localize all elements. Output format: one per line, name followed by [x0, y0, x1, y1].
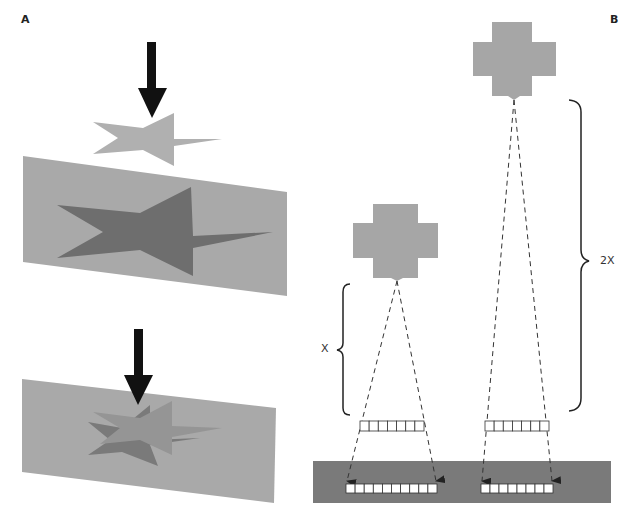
x-ray-source-far	[473, 22, 556, 96]
image-bar-near	[346, 484, 437, 493]
dimension-label-2x: 2X	[600, 254, 615, 267]
light-star-floating	[93, 113, 222, 166]
object-bar-near	[360, 421, 424, 431]
beam-near-right	[397, 281, 436, 481]
object-bar-far	[485, 421, 549, 431]
panel-a-bottom-scene	[22, 329, 276, 503]
detector-strip	[313, 461, 611, 503]
down-arrow-shaft-bottom	[134, 329, 143, 377]
down-arrow-shaft-top	[147, 42, 156, 90]
beam-near-left	[347, 281, 397, 481]
bracket-2x	[569, 100, 589, 411]
bracket-x	[337, 284, 350, 415]
image-bar-far	[481, 484, 553, 493]
x-ray-source-near	[353, 204, 438, 278]
down-arrow-head-top	[138, 88, 167, 118]
panel-b-scene	[313, 22, 611, 503]
diagram-canvas	[0, 0, 632, 518]
panel-a-top-scene	[23, 42, 287, 296]
dimension-label-x: X	[321, 342, 329, 355]
